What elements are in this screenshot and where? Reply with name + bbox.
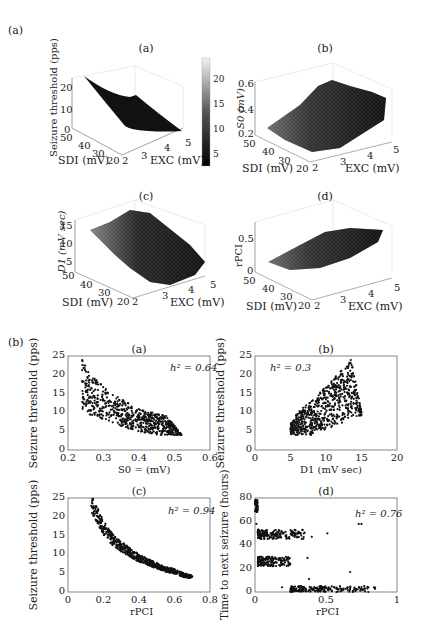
y-tick: 20 (48, 510, 65, 521)
scatter-d-xlabel: rPCI (316, 606, 339, 617)
y-tick: 15 (235, 387, 252, 398)
x-tick: 0.6 (202, 452, 218, 463)
y-tick: 25 (235, 349, 252, 360)
scatter-a-annotation: h² = 0.64 (170, 362, 217, 373)
y-tick: 80 (235, 491, 252, 502)
y-tick: 20 (235, 368, 252, 379)
x-tick: 1 (389, 594, 405, 605)
y-tick: 5 (48, 424, 65, 435)
y-tick: 60 (235, 515, 252, 526)
scatter-c-ylabel: Seizure threshold (pps) (27, 481, 40, 611)
x-tick: 5 (283, 452, 299, 463)
scatter-d-annotation: h² = 0.76 (355, 508, 402, 519)
x-tick: 0.2 (96, 594, 112, 605)
x-tick: 0.4 (131, 594, 147, 605)
scatter-d-title: (d) (318, 485, 334, 498)
y-tick: 5 (235, 424, 252, 435)
x-tick: 20 (389, 452, 405, 463)
x-tick: 0.4 (131, 452, 147, 463)
scatter-b-annotation: h² = 0.3 (270, 362, 311, 373)
y-tick: 0 (235, 443, 252, 454)
scatter-a-ylabel: Seizure threshold (pps) (27, 339, 40, 469)
scatter-d-ylabel: Time to next seizure (hours) (218, 470, 230, 620)
y-tick: 25 (48, 491, 65, 502)
y-tick: 0 (48, 443, 65, 454)
y-tick: 0 (48, 585, 65, 596)
y-tick: 20 (48, 368, 65, 379)
y-tick: 25 (48, 349, 65, 360)
y-tick: 10 (48, 405, 65, 416)
y-tick: 10 (235, 405, 252, 416)
scatter-plots-svg (0, 0, 423, 640)
x-tick: 0.6 (167, 594, 183, 605)
scatter-a-title: (a) (131, 343, 146, 356)
scatter-b-xlabel: D1 (mV sec) (300, 464, 362, 475)
x-tick: 10 (318, 452, 334, 463)
x-tick: 15 (354, 452, 370, 463)
scatter-b-ylabel: Seizure threshold (pps) (214, 339, 227, 469)
x-tick: 0.5 (318, 594, 334, 605)
y-tick: 15 (48, 387, 65, 398)
scatter-c-xlabel: rPCI (130, 606, 153, 617)
y-tick: 20 (235, 562, 252, 573)
scatter-c-annotation: h² = 0.94 (168, 505, 215, 516)
y-tick: 15 (48, 529, 65, 540)
y-tick: 0 (235, 585, 252, 596)
scatter-b-title: (b) (318, 343, 334, 356)
y-tick: 5 (48, 566, 65, 577)
scatter-a-xlabel: S0 = (mV) (118, 464, 170, 475)
x-tick: 0.3 (96, 452, 112, 463)
y-tick: 10 (48, 547, 65, 558)
scatter-c-title: (c) (132, 485, 147, 498)
x-tick: 0.5 (167, 452, 183, 463)
y-tick: 40 (235, 538, 252, 549)
x-tick: 0.8 (202, 594, 218, 605)
